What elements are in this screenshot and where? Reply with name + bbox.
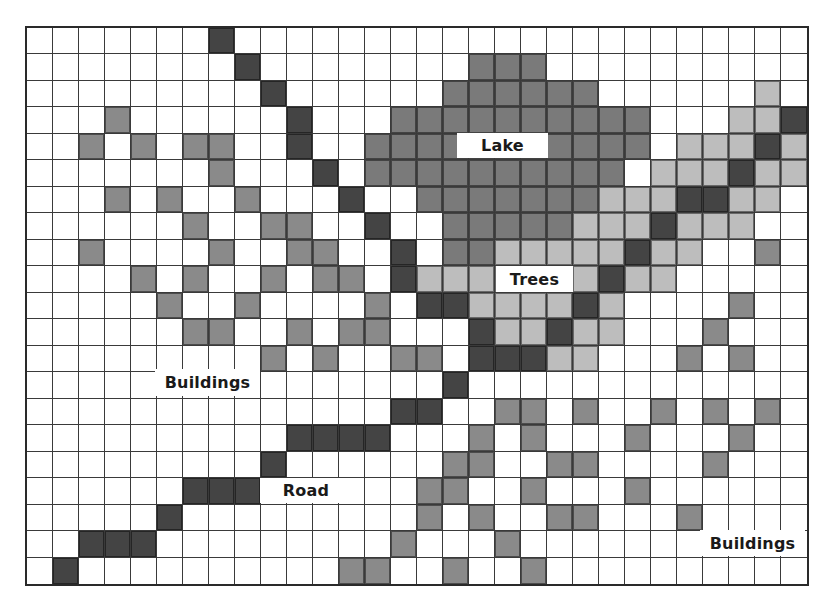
cell-empty — [131, 54, 157, 80]
cell-buildings — [157, 293, 183, 319]
cell-empty — [495, 558, 521, 584]
cell-lake — [547, 134, 573, 160]
cell-empty — [651, 54, 677, 80]
cell-lake — [391, 134, 417, 160]
cell-trees — [547, 346, 573, 372]
cell-buildings — [495, 399, 521, 425]
cell-empty — [365, 240, 391, 266]
cell-lake — [417, 187, 443, 213]
cell-buildings — [209, 160, 235, 186]
cell-empty — [131, 478, 157, 504]
cell-empty — [313, 28, 339, 54]
cell-road — [417, 293, 443, 319]
cell-empty — [235, 425, 261, 451]
cell-empty — [443, 531, 469, 557]
cell-empty — [235, 240, 261, 266]
cell-empty — [27, 28, 53, 54]
cell-empty — [131, 319, 157, 345]
cell-buildings — [703, 399, 729, 425]
cell-trees — [755, 81, 781, 107]
cell-lake — [391, 160, 417, 186]
cell-trees — [625, 266, 651, 292]
cell-empty — [495, 505, 521, 531]
cell-empty — [105, 266, 131, 292]
cell-empty — [79, 346, 105, 372]
cell-lake — [495, 213, 521, 239]
cell-buildings — [183, 213, 209, 239]
cell-empty — [183, 54, 209, 80]
buildings-label-right: Buildings — [700, 530, 805, 556]
cell-empty — [677, 54, 703, 80]
cell-empty — [625, 293, 651, 319]
cell-empty — [157, 478, 183, 504]
cell-buildings — [339, 558, 365, 584]
cell-empty — [781, 54, 807, 80]
cell-empty — [131, 452, 157, 478]
cell-trees — [625, 187, 651, 213]
cell-empty — [287, 452, 313, 478]
cell-empty — [703, 425, 729, 451]
cell-buildings — [235, 187, 261, 213]
cell-empty — [521, 372, 547, 398]
cell-road — [339, 425, 365, 451]
cell-empty — [339, 531, 365, 557]
cell-trees — [469, 266, 495, 292]
cell-lake — [547, 187, 573, 213]
cell-empty — [703, 505, 729, 531]
cell-empty — [261, 399, 287, 425]
cell-empty — [625, 372, 651, 398]
cell-empty — [391, 293, 417, 319]
cell-buildings — [677, 346, 703, 372]
cell-empty — [703, 346, 729, 372]
cell-empty — [105, 160, 131, 186]
cell-empty — [339, 399, 365, 425]
cell-empty — [105, 399, 131, 425]
cell-empty — [313, 81, 339, 107]
cell-empty — [547, 478, 573, 504]
cell-trees — [599, 293, 625, 319]
cell-empty — [27, 399, 53, 425]
cell-empty — [651, 478, 677, 504]
cell-road — [677, 187, 703, 213]
cell-empty — [391, 213, 417, 239]
cell-empty — [27, 160, 53, 186]
cell-empty — [157, 399, 183, 425]
cell-empty — [53, 399, 79, 425]
cell-empty — [105, 293, 131, 319]
cell-empty — [79, 107, 105, 133]
cell-empty — [53, 478, 79, 504]
cell-empty — [339, 293, 365, 319]
cell-lake — [443, 213, 469, 239]
cell-trees — [677, 213, 703, 239]
cell-empty — [469, 531, 495, 557]
cell-empty — [131, 293, 157, 319]
cell-empty — [781, 558, 807, 584]
cell-empty — [573, 54, 599, 80]
cell-empty — [443, 54, 469, 80]
cell-empty — [599, 81, 625, 107]
cell-road — [235, 478, 261, 504]
cell-empty — [209, 505, 235, 531]
cell-empty — [183, 399, 209, 425]
cell-trees — [573, 240, 599, 266]
cell-empty — [27, 213, 53, 239]
cell-empty — [27, 54, 53, 80]
cell-empty — [235, 81, 261, 107]
cell-empty — [443, 425, 469, 451]
cell-trees — [573, 213, 599, 239]
cell-empty — [417, 240, 443, 266]
cell-lake — [495, 107, 521, 133]
cell-empty — [53, 505, 79, 531]
cell-empty — [469, 558, 495, 584]
cell-empty — [79, 81, 105, 107]
cell-empty — [391, 452, 417, 478]
cell-trees — [599, 319, 625, 345]
cell-empty — [27, 293, 53, 319]
cell-lake — [469, 54, 495, 80]
cell-empty — [703, 54, 729, 80]
cell-road — [339, 187, 365, 213]
cell-empty — [781, 372, 807, 398]
cell-buildings — [729, 293, 755, 319]
cell-empty — [651, 425, 677, 451]
cell-empty — [183, 28, 209, 54]
